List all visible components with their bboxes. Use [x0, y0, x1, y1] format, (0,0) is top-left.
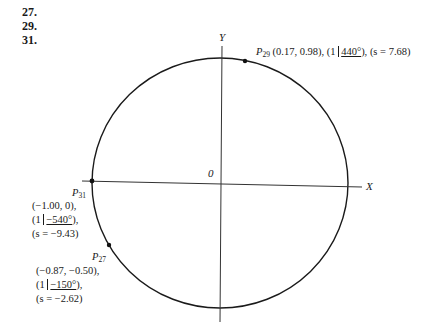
- point-p27-arc: (s = −2.62): [36, 292, 83, 305]
- problem-number-31: 31.: [22, 33, 37, 47]
- p29-angle: 440°: [338, 46, 361, 57]
- y-axis-label: Y: [219, 31, 225, 43]
- point-p29-marker: [243, 59, 247, 63]
- point-p27-coords: (−0.87, −0.50),: [36, 264, 99, 277]
- point-p31-polar: (1 −540°),: [32, 213, 78, 226]
- point-p29-label: P29 (0.17, 0.98), (1 440°), (s = 7.68): [256, 45, 411, 61]
- p31-angle: −540°: [43, 214, 72, 225]
- origin-label: 0: [208, 167, 214, 179]
- p29-polar-prefix: (1: [327, 46, 338, 57]
- point-p27-polar: (1 −150°),: [36, 278, 82, 291]
- point-p31-marker: [90, 179, 95, 184]
- problem-number-29: 29.: [22, 19, 37, 33]
- p29-arc: (s = 7.68): [370, 46, 411, 57]
- point-p27-marker: [107, 243, 111, 247]
- p27-angle: −150°: [47, 279, 76, 290]
- x-axis-label: X: [366, 180, 373, 192]
- p29-sub: 29: [262, 50, 270, 59]
- x-axis: [82, 181, 362, 187]
- point-p31-coords: (−1.00, 0),: [32, 199, 76, 212]
- point-p31-arc: (s = −9.43): [32, 227, 79, 240]
- p29-polar-suffix: ),: [361, 46, 367, 57]
- p29-coords: (0.17, 0.98),: [273, 46, 325, 57]
- problem-number-27: 27.: [22, 5, 37, 19]
